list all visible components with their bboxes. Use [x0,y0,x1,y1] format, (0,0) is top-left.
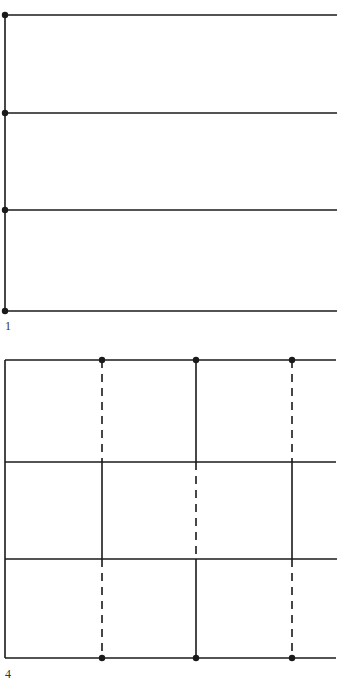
node-dot [2,12,8,18]
node-dot [289,655,295,661]
node-dot [99,357,105,363]
node-dot [193,655,199,661]
figure-4 [5,357,337,661]
node-dot [289,357,295,363]
figure-4-label: 4 [5,668,11,680]
node-dot [99,655,105,661]
figure-1-label: 1 [5,320,11,332]
node-dot [2,110,8,116]
diagram-canvas [0,0,354,680]
node-dot [193,357,199,363]
figure-1 [2,12,337,314]
node-dot [2,308,8,314]
node-dot [2,207,8,213]
